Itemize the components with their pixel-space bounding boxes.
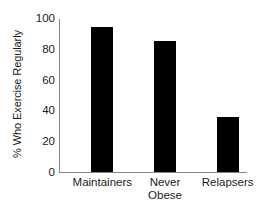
y-axis-title: % Who Exercise Regularly xyxy=(11,9,23,179)
y-tick-label: 20 xyxy=(25,136,55,148)
bar-maintainers xyxy=(91,27,113,172)
x-axis-line xyxy=(59,172,247,173)
bar-chart-figure: % Who Exercise Regularly 100 80 60 40 20… xyxy=(0,0,260,214)
y-tick-label: 40 xyxy=(25,105,55,117)
y-axis-line xyxy=(59,19,60,173)
x-tick-label-line: Maintainers xyxy=(73,176,132,188)
bar-never-obese xyxy=(154,41,176,172)
y-tick-label: 60 xyxy=(25,75,55,87)
x-tick-label-line: Obese xyxy=(126,189,204,202)
x-tick-label-relapsers: Relapsers xyxy=(189,176,260,189)
y-tick-label: 100 xyxy=(25,13,55,25)
x-tick-label-line: Never xyxy=(150,176,181,188)
y-tick-label: 0 xyxy=(25,167,55,179)
x-tick-label-line: Relapsers xyxy=(202,176,254,188)
y-axis-tick-labels: 100 80 60 40 20 0 xyxy=(23,0,55,214)
y-tick-label: 80 xyxy=(25,44,55,56)
plot-area xyxy=(59,19,247,173)
x-axis-tick-labels: Maintainers Never Obese Relapsers xyxy=(59,176,247,214)
bar-relapsers xyxy=(217,117,239,172)
